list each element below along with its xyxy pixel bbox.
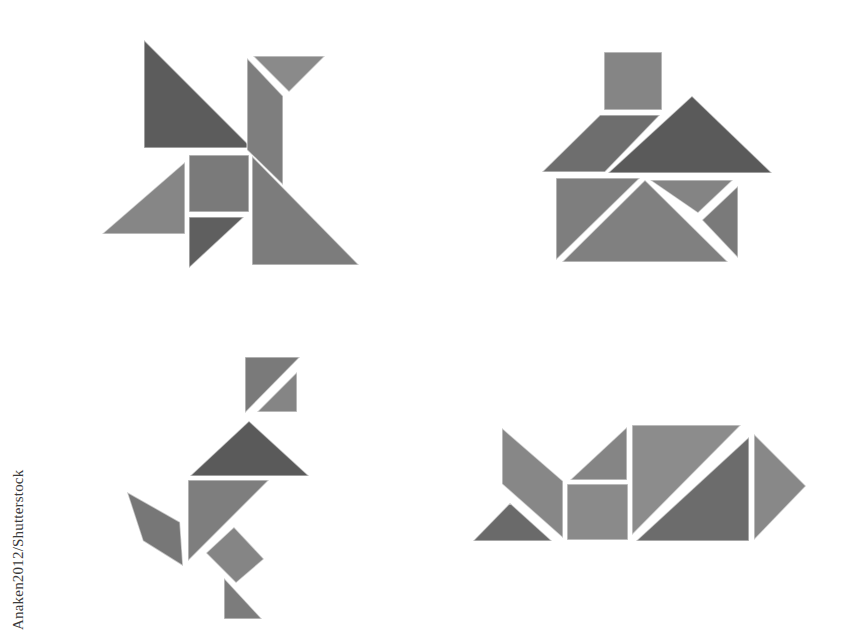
runner-leg-parallelogram — [127, 492, 183, 566]
pinwheel-small-triangle-bottom — [189, 217, 244, 268]
runner-torso-large-triangle — [190, 421, 309, 476]
house-figure — [542, 52, 772, 262]
running-figure — [127, 357, 309, 619]
pinwheel-medium-triangle-left — [102, 162, 185, 234]
pinwheel-large-triangle-bottom — [252, 156, 359, 265]
runner-foot-triangle — [224, 578, 262, 619]
tangram-photo — [0, 0, 857, 641]
pinwheel-large-triangle-top — [144, 40, 252, 148]
fish-head-triangle — [754, 434, 806, 540]
pinwheel-figure — [102, 40, 359, 268]
runner-knee-square — [206, 527, 264, 583]
fish-figure — [473, 425, 806, 541]
fish-body-square — [567, 484, 628, 540]
photo-credit: Anaken2012/Shutterstock — [10, 470, 27, 630]
fish-body-small-triangle — [570, 427, 627, 480]
pinwheel-square — [189, 155, 249, 212]
house-chimney-square — [604, 52, 662, 110]
